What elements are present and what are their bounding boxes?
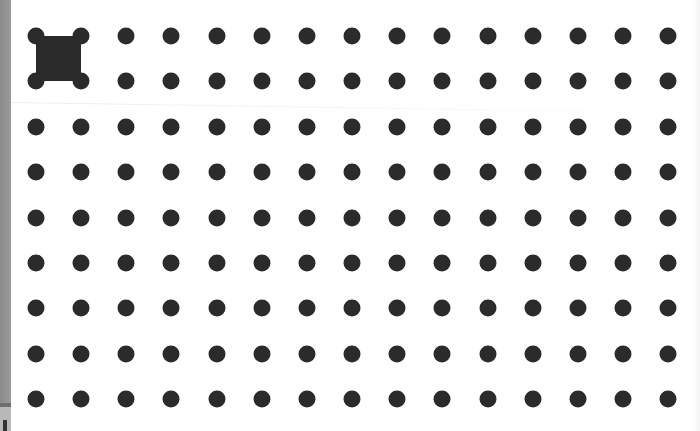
grid-dot[interactable] [118, 164, 135, 181]
grid-dot[interactable] [569, 255, 586, 272]
grid-dot[interactable] [344, 345, 361, 362]
grid-dot[interactable] [118, 391, 135, 408]
grid-dot[interactable] [569, 300, 586, 317]
grid-dot[interactable] [524, 73, 541, 90]
grid-dot[interactable] [208, 345, 225, 362]
grid-dot[interactable] [569, 345, 586, 362]
grid-dot[interactable] [163, 73, 180, 90]
grid-dot[interactable] [344, 300, 361, 317]
grid-dot[interactable] [434, 164, 451, 181]
grid-dot[interactable] [73, 209, 90, 226]
grid-dot[interactable] [73, 255, 90, 272]
grid-dot[interactable] [118, 73, 135, 90]
grid-dot[interactable] [614, 300, 631, 317]
grid-dot[interactable] [479, 391, 496, 408]
grid-dot[interactable] [118, 345, 135, 362]
grid-dot[interactable] [434, 209, 451, 226]
grid-dot[interactable] [389, 391, 406, 408]
grid-dot[interactable] [569, 209, 586, 226]
grid-dot[interactable] [28, 300, 45, 317]
grid-dot[interactable] [344, 118, 361, 135]
grid-dot[interactable] [434, 345, 451, 362]
grid-dot[interactable] [524, 164, 541, 181]
grid-dot[interactable] [28, 28, 45, 45]
grid-dot[interactable] [163, 300, 180, 317]
grid-dot[interactable] [73, 300, 90, 317]
grid-dot[interactable] [524, 28, 541, 45]
grid-dot[interactable] [208, 73, 225, 90]
grid-dot[interactable] [660, 255, 677, 272]
grid-dot[interactable] [479, 345, 496, 362]
grid-dot[interactable] [118, 255, 135, 272]
grid-dot[interactable] [73, 164, 90, 181]
grid-dot[interactable] [344, 209, 361, 226]
grid-dot[interactable] [434, 28, 451, 45]
grid-dot[interactable] [479, 28, 496, 45]
grid-dot[interactable] [253, 300, 270, 317]
grid-dot[interactable] [73, 118, 90, 135]
grid-dot[interactable] [344, 164, 361, 181]
grid-dot[interactable] [389, 164, 406, 181]
grid-dot[interactable] [298, 118, 315, 135]
grid-dot[interactable] [253, 164, 270, 181]
grid-dot[interactable] [569, 28, 586, 45]
grid-dot[interactable] [298, 209, 315, 226]
grid-dot[interactable] [28, 391, 45, 408]
grid-dot[interactable] [208, 391, 225, 408]
grid-dot[interactable] [163, 391, 180, 408]
grid-dot[interactable] [298, 391, 315, 408]
grid-dot[interactable] [298, 255, 315, 272]
grid-dot[interactable] [434, 391, 451, 408]
grid-dot[interactable] [208, 300, 225, 317]
grid-dot[interactable] [298, 300, 315, 317]
grid-dot[interactable] [389, 300, 406, 317]
grid-dot[interactable] [660, 28, 677, 45]
grid-dot[interactable] [524, 255, 541, 272]
grid-dot[interactable] [253, 73, 270, 90]
grid-dot[interactable] [389, 118, 406, 135]
grid-dot[interactable] [614, 209, 631, 226]
grid-dot[interactable] [344, 255, 361, 272]
grid-dot[interactable] [298, 345, 315, 362]
grid-dot[interactable] [253, 345, 270, 362]
grid-dot[interactable] [298, 28, 315, 45]
grid-dot[interactable] [524, 345, 541, 362]
grid-dot[interactable] [389, 255, 406, 272]
grid-dot[interactable] [524, 209, 541, 226]
grid-dot[interactable] [614, 255, 631, 272]
grid-dot[interactable] [479, 118, 496, 135]
grid-dot[interactable] [389, 345, 406, 362]
grid-dot[interactable] [344, 391, 361, 408]
grid-dot[interactable] [389, 209, 406, 226]
grid-dot[interactable] [208, 164, 225, 181]
grid-dot[interactable] [253, 255, 270, 272]
grid-dot[interactable] [28, 345, 45, 362]
grid-dot[interactable] [614, 391, 631, 408]
grid-dot[interactable] [163, 255, 180, 272]
grid-dot[interactable] [614, 118, 631, 135]
grid-dot[interactable] [73, 28, 90, 45]
grid-dot[interactable] [298, 73, 315, 90]
grid-dot[interactable] [73, 345, 90, 362]
grid-dot[interactable] [208, 118, 225, 135]
grid-dot[interactable] [389, 28, 406, 45]
grid-dot[interactable] [253, 209, 270, 226]
grid-dot[interactable] [660, 209, 677, 226]
grid-dot[interactable] [524, 391, 541, 408]
grid-dot[interactable] [344, 73, 361, 90]
grid-dot[interactable] [73, 391, 90, 408]
grid-dot[interactable] [28, 255, 45, 272]
grid-dot[interactable] [479, 300, 496, 317]
grid-dot[interactable] [28, 164, 45, 181]
grid-dot[interactable] [660, 345, 677, 362]
grid-dot[interactable] [614, 28, 631, 45]
grid-dot[interactable] [163, 345, 180, 362]
grid-dot[interactable] [253, 28, 270, 45]
grid-dot[interactable] [660, 164, 677, 181]
grid-dot[interactable] [163, 164, 180, 181]
grid-dot[interactable] [614, 345, 631, 362]
grid-dot[interactable] [569, 164, 586, 181]
dot-grid-board[interactable] [0, 0, 700, 431]
grid-dot[interactable] [163, 28, 180, 45]
grid-dot[interactable] [434, 73, 451, 90]
